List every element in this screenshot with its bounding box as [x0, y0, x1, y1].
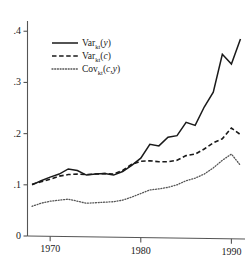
chart-canvas	[0, 0, 248, 270]
y-tick-label: .2	[0, 129, 21, 139]
y-tick-label: 0	[0, 231, 21, 241]
x-tick-label: 1970	[30, 244, 70, 254]
y-tick-label: .3	[0, 77, 21, 87]
x-tick-label: 1990	[211, 247, 248, 257]
figure-container: 0.1.2.3.4 197019801990 Varkt(y) Varkt(c)…	[0, 0, 248, 270]
legend-label-var-y: Varkt(y)	[82, 38, 111, 52]
x-tick-label: 1980	[121, 246, 161, 256]
series-line-var-c	[32, 128, 240, 184]
axes	[24, 21, 246, 244]
x-axis-line	[28, 236, 246, 239]
legend-label-var-c: Varkt(c)	[82, 51, 111, 65]
y-tick-label: .1	[0, 180, 21, 190]
y-tick-marks	[24, 31, 28, 236]
legend-label-cov-cy: Covkt(c,y)	[82, 64, 120, 78]
legend-swatches	[52, 43, 78, 69]
data-series-group	[32, 39, 240, 206]
y-tick-label: .4	[0, 26, 21, 36]
